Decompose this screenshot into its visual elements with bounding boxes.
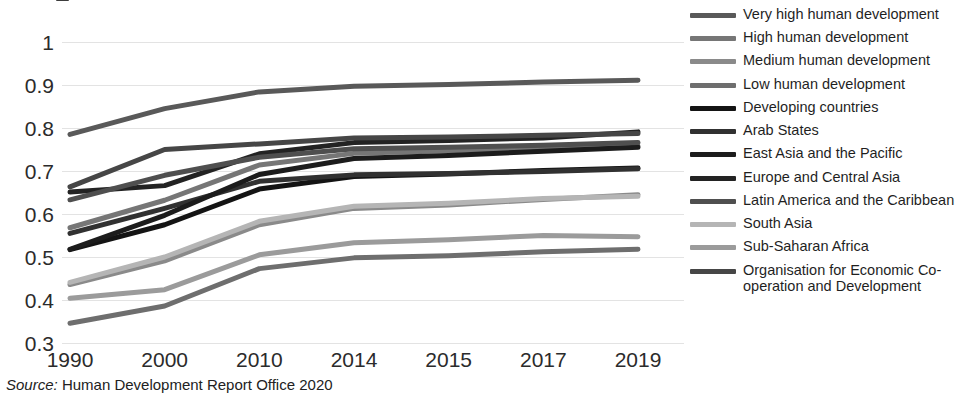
legend-item-label: South Asia [743, 215, 812, 231]
legend-color-swatch-icon [690, 106, 736, 111]
legend-item[interactable]: Sub-Saharan Africa [690, 238, 967, 254]
y-axis-tick-label: 0.7 [25, 160, 54, 183]
legend-item[interactable]: Developing countries [690, 99, 967, 115]
legend-color-swatch-icon [690, 245, 736, 250]
legend-item-label: Sub-Saharan Africa [743, 238, 869, 254]
line-chart-svg: 0.30.40.50.60.70.80.91199020002010201420… [0, 0, 690, 372]
legend-item[interactable]: Low human development [690, 76, 967, 92]
source-text: Human Development Report Office 2020 [62, 376, 333, 393]
y-axis-tick-label: 0.9 [25, 74, 54, 97]
legend-color-swatch-icon [690, 36, 736, 41]
legend-item[interactable]: Latin America and the Caribbean [690, 192, 967, 208]
legend-item[interactable]: Very high human development [690, 6, 967, 22]
legend-item-label: Europe and Central Asia [743, 169, 900, 185]
legend-item[interactable]: South Asia [690, 215, 967, 231]
y-axis-tick-label: 0.4 [25, 289, 55, 312]
legend-color-swatch-icon [690, 83, 736, 88]
legend-item[interactable]: Medium human development [690, 52, 967, 68]
legend-item-label: Latin America and the Caribbean [743, 192, 954, 208]
legend-list: Very high human developmentHigh human de… [690, 6, 967, 294]
series-line-7 [70, 132, 638, 192]
chart-legend: Very high human developmentHigh human de… [690, 0, 967, 372]
legend-color-swatch-icon [690, 13, 736, 18]
legend-item-label: Arab States [743, 122, 819, 138]
legend-item-label: Very high human development [743, 6, 939, 22]
legend-color-swatch-icon [690, 129, 736, 134]
x-axis-tick-label: 2017 [520, 348, 567, 371]
x-axis-tick-label: 2019 [615, 348, 662, 371]
legend-item[interactable]: High human development [690, 29, 967, 45]
legend-item[interactable]: East Asia and the Pacific [690, 145, 967, 161]
legend-item-label: East Asia and the Pacific [743, 145, 903, 161]
source-prefix: Source: [6, 376, 58, 393]
legend-item[interactable]: Europe and Central Asia [690, 169, 967, 185]
legend-color-swatch-icon [690, 152, 736, 157]
x-axis-tick-label: 2014 [331, 348, 378, 371]
legend-color-swatch-icon [690, 176, 736, 181]
legend-color-swatch-icon [690, 199, 736, 204]
legend-item-label: Medium human development [743, 52, 930, 68]
x-axis-tick-label: 1990 [47, 348, 94, 371]
legend-item-label: High human development [743, 29, 908, 45]
y-axis-tick-label: 0.8 [25, 117, 54, 140]
y-axis-tick-label: 1 [42, 31, 54, 54]
legend-color-swatch-icon [690, 222, 736, 227]
y-axis-tick-label: 0.5 [25, 246, 54, 269]
source-note: Source: Human Development Report Office … [6, 376, 333, 393]
legend-item[interactable]: Arab States [690, 122, 967, 138]
x-axis-tick-label: 2015 [425, 348, 472, 371]
legend-item-label: Low human development [743, 76, 905, 92]
y-axis-tick-label: 0.6 [25, 203, 54, 226]
series-line-0 [70, 80, 638, 134]
hdi-trend-figure: 0.30.40.50.60.70.80.91199020002010201420… [0, 0, 967, 402]
chart-plot-area: 0.30.40.50.60.70.80.91199020002010201420… [0, 0, 690, 372]
x-axis-tick-label: 2010 [236, 348, 283, 371]
x-axis-tick-label: 2000 [141, 348, 188, 371]
legend-color-swatch-icon [690, 59, 736, 64]
legend-item[interactable]: Organisation for Economic Co-operation a… [690, 262, 967, 294]
series-line-10 [70, 236, 638, 299]
legend-color-swatch-icon [690, 269, 736, 274]
legend-item-label: Organisation for Economic Co-operation a… [743, 262, 955, 294]
legend-item-label: Developing countries [743, 99, 878, 115]
